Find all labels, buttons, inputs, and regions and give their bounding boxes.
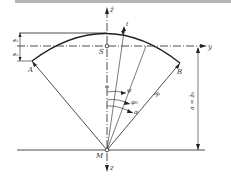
label-e1: e₁ — [13, 37, 18, 43]
y-arrow-icon — [200, 44, 207, 48]
label-S: S — [99, 48, 104, 56]
label-R: R — [153, 89, 162, 98]
label-t: t — [126, 20, 129, 27]
z-bottom-arrow-icon — [105, 165, 109, 172]
top-bar — [15, 0, 231, 3]
label-M: M — [95, 152, 104, 160]
label-phi: φ — [127, 86, 132, 94]
label-z-top: z̄ — [109, 6, 114, 14]
point-M — [105, 148, 109, 152]
label-z-bottom: z — [109, 164, 114, 172]
arch-diagram: z̄ z y A B S M e₁ e₂ t φ φ₀ α R a = z̄₀ — [0, 0, 231, 176]
line-M-A — [32, 61, 107, 150]
label-a-dim: a = z̄₀ — [188, 91, 195, 110]
label-y: y — [207, 43, 213, 51]
point-S — [105, 44, 109, 48]
arch-curve — [32, 33, 180, 63]
z-top-arrow-icon — [105, 7, 109, 14]
label-alpha: α — [134, 108, 138, 115]
diagram-canvas: z̄ z y A B S M e₁ e₂ t φ φ₀ α R a = z̄₀ — [0, 0, 231, 176]
label-phi0: φ₀ — [131, 98, 138, 106]
ray-2 — [107, 46, 146, 150]
label-A: A — [27, 66, 33, 74]
label-e2: e₂ — [13, 51, 18, 57]
label-B: B — [176, 68, 182, 76]
